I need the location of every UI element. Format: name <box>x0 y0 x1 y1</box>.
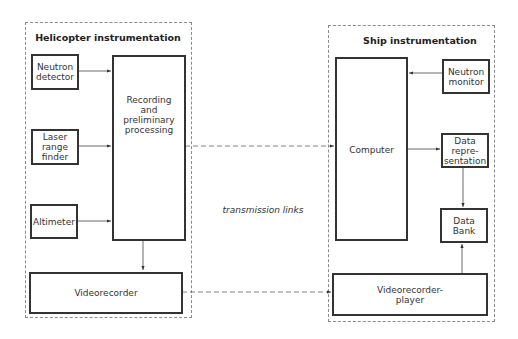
videorecorder-player-label: Videorecorder- player <box>377 285 443 305</box>
videorecorder-label: Videorecorder <box>74 288 137 298</box>
computer-label: Computer <box>349 145 394 155</box>
neutron-monitor-block: Neutron monitor <box>442 59 490 94</box>
recording-processing-block: Recording and preliminary processing <box>112 55 186 241</box>
computer-block: Computer <box>335 57 408 241</box>
data-bank-label: Data Bank <box>453 216 476 236</box>
laser-range-finder-block: Laser range finder <box>31 129 79 165</box>
neutron-detector-block: Neutron detector <box>31 54 79 90</box>
videorecorder-player-block: Videorecorder- player <box>332 273 488 316</box>
data-representation-label: Data repre- sentation <box>444 136 486 166</box>
altimeter-label: Altimeter <box>33 217 75 227</box>
laser-range-finder-label: Laser range finder <box>42 132 68 162</box>
data-representation-block: Data repre- sentation <box>441 133 489 168</box>
videorecorder-block: Videorecorder <box>29 272 183 314</box>
neutron-monitor-label: Neutron monitor <box>448 67 484 87</box>
neutron-detector-label: Neutron detector <box>36 62 74 82</box>
recording-processing-label: Recording and preliminary processing <box>123 95 174 135</box>
data-bank-block: Data Bank <box>440 208 488 243</box>
transmission-links-caption: transmission links <box>223 205 304 215</box>
altimeter-block: Altimeter <box>30 204 78 239</box>
